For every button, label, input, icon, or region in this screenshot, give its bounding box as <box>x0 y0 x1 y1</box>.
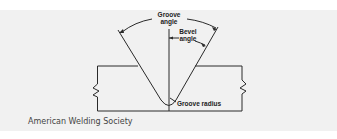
groove-radius-leader <box>170 98 176 102</box>
groove-angle-label-2: angle <box>161 18 178 26</box>
groove-angle-arc-right <box>187 19 216 28</box>
bevel-angle-label-1: Bevel <box>179 28 197 35</box>
credit-text: American Welding Society <box>28 117 133 126</box>
groove-angle-label-1: Groove <box>158 11 181 18</box>
bevel-angle-arc <box>195 41 205 45</box>
groove-arrow-left-icon <box>119 29 124 33</box>
bevel-arrow-icon <box>169 37 173 40</box>
groove-radius-label: Groove radius <box>177 100 221 107</box>
bevel-arrow-right-icon <box>201 43 206 47</box>
groove-angle-arc-left <box>122 19 152 32</box>
bevel-angle-label-2: angle <box>180 35 197 43</box>
left-plate <box>93 66 169 111</box>
